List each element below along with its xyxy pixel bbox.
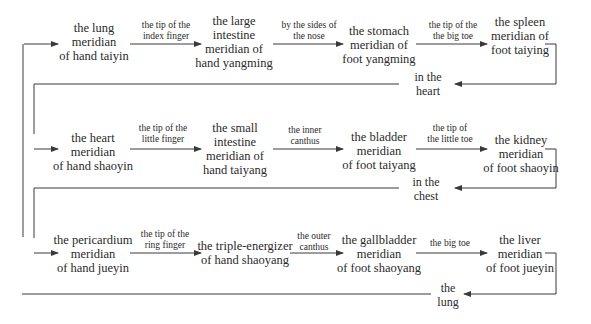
edge-line: the tip of the [429, 20, 477, 31]
edge-line: index finger [142, 31, 190, 42]
edge-line: ring finger [141, 240, 189, 251]
node-line: the spleen [491, 15, 549, 29]
edge-label-r2-e2: the inner canthus [288, 125, 322, 147]
node-line: the triple-energizer [197, 239, 292, 253]
node-line: meridian [54, 247, 133, 261]
node-line: meridian [342, 144, 416, 158]
node-line: of foot taiyang [342, 158, 416, 172]
edge-label-r3-e3: the big toe [430, 238, 470, 249]
edge-label-r1-e3: the tip of the the big toe [429, 20, 477, 42]
node-line: meridian of [491, 29, 549, 43]
junction-line: in the [415, 70, 442, 84]
edge-line: by the sides of [281, 20, 336, 31]
edge-label-r1-e1: the tip of the index finger [142, 20, 190, 42]
node-line: meridian of [203, 149, 267, 163]
node-line: of hand taiyin [59, 49, 128, 63]
node-line: the stomach [342, 24, 415, 38]
node-line: meridian [59, 35, 128, 49]
node-bladder-meridian-foot-taiyang: the bladder meridian of foot taiyang [342, 130, 416, 172]
node-liver-meridian-foot-jueyin: the liver meridian of foot jueyin [486, 233, 554, 275]
edge-line: the tip of [427, 123, 472, 134]
edge-line: canthus [288, 136, 322, 147]
node-heart-meridian-hand-shaoyin: the heart meridian of hand shaoyin [53, 131, 133, 173]
node-line: intestine [203, 135, 267, 149]
node-line: the bladder [342, 130, 416, 144]
node-small-intestine-meridian-hand-taiyang: the small intestine meridian of hand tai… [203, 121, 267, 177]
node-kidney-meridian-foot-shaoyin: the kidney meridian of foot shaoyin [483, 133, 559, 175]
edge-line: the inner [288, 125, 322, 136]
node-line: the heart [53, 131, 133, 145]
node-line: foot yangming [342, 52, 415, 66]
node-line: the small [203, 121, 267, 135]
junction-line: in the [413, 175, 440, 189]
node-gallbladder-meridian-foot-shaoyang: the gallbladder meridian of foot shaoyan… [337, 233, 421, 275]
node-large-intestine-meridian-hand-yangming: the large intestine meridian of hand yan… [195, 14, 272, 70]
edge-line: canthus [297, 242, 331, 253]
junction-line: heart [415, 84, 442, 98]
node-line: meridian of [195, 42, 272, 56]
edge-line: the outer [297, 231, 331, 242]
node-line: of foot shaoyang [337, 261, 421, 275]
node-lung-meridian-hand-taiyin: the lung meridian of hand taiyin [59, 21, 128, 63]
edge-label-r2-e1: the tip of the little finger [139, 123, 187, 145]
return-r2-left [34, 188, 399, 238]
node-line: the large [195, 14, 272, 28]
junction-line: the [437, 281, 458, 295]
node-triple-energizer-hand-shaoyang: the triple-energizer of hand shaoyang [197, 239, 292, 267]
node-line: intestine [195, 28, 272, 42]
node-spleen-meridian-foot-taiying: the spleen meridian of foot taiying [491, 15, 549, 57]
node-line: the pericardium [54, 233, 133, 247]
edge-line: little finger [139, 134, 187, 145]
node-line: of foot shaoyin [483, 161, 559, 175]
junction-the-lung: the lung [437, 281, 458, 309]
edge-label-r3-e1: the tip of the ring finger [141, 229, 189, 251]
node-pericardium-meridian-hand-jueyin: the pericardium meridian of hand jueyin [54, 233, 133, 275]
node-line: the gallbladder [337, 233, 421, 247]
node-line: hand yangming [195, 56, 272, 70]
node-line: of hand jueyin [54, 261, 133, 275]
node-line: meridian of [342, 38, 415, 52]
edge-label-r2-e3: the tip of the little toe [427, 123, 472, 145]
edge-line: the tip of the [141, 229, 189, 240]
junction-in-the-heart: in the heart [415, 70, 442, 98]
node-line: the lung [59, 21, 128, 35]
node-line: hand taiyang [203, 163, 267, 177]
node-line: of hand shaoyang [197, 253, 292, 267]
edge-label-r3-e2: the outer canthus [297, 231, 331, 253]
node-line: of foot jueyin [486, 261, 554, 275]
edge-line: the big toe [430, 238, 470, 249]
edge-line: the tip of the [142, 20, 190, 31]
node-line: meridian [486, 247, 554, 261]
edge-label-r1-e2: by the sides of the nose [281, 20, 336, 42]
node-line: meridian [483, 147, 559, 161]
node-line: meridian [337, 247, 421, 261]
node-stomach-meridian-foot-yangming: the stomach meridian of foot yangming [342, 24, 415, 66]
node-line: foot taiying [491, 43, 549, 57]
edge-line: the big toe [429, 31, 477, 42]
node-line: of hand shaoyin [53, 159, 133, 173]
edge-line: the nose [281, 31, 336, 42]
edge-line: the tip of the [139, 123, 187, 134]
junction-in-the-chest: in the chest [413, 175, 440, 203]
node-line: the kidney [483, 133, 559, 147]
node-line: the liver [486, 233, 554, 247]
junction-line: chest [413, 189, 440, 203]
junction-line: lung [437, 295, 458, 309]
node-line: meridian [53, 145, 133, 159]
edge-line: the little toe [427, 134, 472, 145]
